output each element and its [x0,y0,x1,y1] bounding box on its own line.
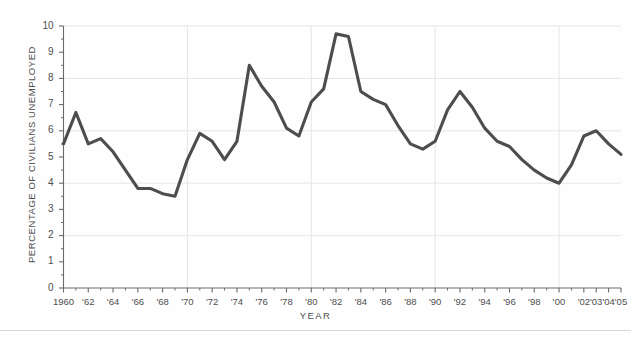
x-tick-label: '84 [355,296,367,307]
y-tick-label: 5 [28,151,54,162]
y-tick-label: 4 [28,177,54,188]
y-tick-label: 7 [28,98,54,109]
x-tick-label: '68 [156,296,168,307]
x-tick-label: '90 [429,296,441,307]
x-tick-label: '03 [590,296,602,307]
x-tick-label: '70 [181,296,193,307]
unemployment-line-chart: PERCENTAGE OF CIVILIANS UNEMPLOYED YEAR … [0,0,631,342]
x-tick-label: '64 [107,296,119,307]
y-tick-label: 2 [28,229,54,240]
x-tick-label: '94 [479,296,491,307]
x-tick-label: 1960 [53,296,74,307]
x-tick-label: '00 [553,296,565,307]
x-tick-label: '82 [330,296,342,307]
x-tick-label: '78 [280,296,292,307]
x-tick-label: '62 [82,296,94,307]
x-tick-label: '80 [305,296,317,307]
x-tick-label: '02 [578,296,590,307]
y-tick-label: 10 [28,20,54,31]
x-tick-label: '66 [132,296,144,307]
y-tick-label: 8 [28,72,54,83]
plot-area [0,0,631,342]
y-tick-label: 1 [28,255,54,266]
y-axis-tick-marks [59,26,64,288]
gridlines [64,26,622,288]
x-tick-label: '05 [615,296,627,307]
x-tick-label: '86 [379,296,391,307]
x-tick-label: '72 [206,296,218,307]
x-tick-label: '88 [404,296,416,307]
x-tick-label: '92 [454,296,466,307]
y-tick-label: 0 [28,282,54,293]
x-tick-label: '96 [503,296,515,307]
bottom-divider [0,330,631,331]
x-tick-label: '76 [256,296,268,307]
y-tick-label: 6 [28,124,54,135]
y-tick-label: 3 [28,203,54,214]
x-tick-label: '04 [602,296,614,307]
x-tick-label: '74 [231,296,243,307]
unemployment-rate-series-line [64,34,622,196]
x-axis-tick-marks [64,288,622,293]
x-tick-label: '98 [528,296,540,307]
y-tick-label: 9 [28,46,54,57]
